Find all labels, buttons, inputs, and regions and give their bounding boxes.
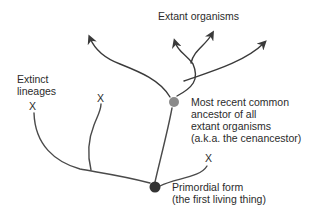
extinct-lineages-line1: Extinct	[17, 73, 56, 85]
primordial-label: Primordial form (the first living thing)	[172, 181, 266, 205]
cenancestor-line4: (a.k.a. the cenancestor)	[191, 132, 301, 144]
cenancestor-line1: Most recent common	[191, 96, 301, 108]
extinction-mark-left: X	[97, 93, 104, 103]
extant-branch-3	[191, 34, 212, 63]
cenancestor-label: Most recent common ancestor of all extan…	[191, 96, 301, 144]
extant-branch-1	[90, 38, 170, 97]
extinct-lineages-label: Extinct lineages	[17, 73, 56, 97]
cenancestor-line2: ancestor of all	[191, 108, 301, 120]
extinct-branch-left	[89, 104, 101, 170]
cenancestor-node	[169, 97, 179, 107]
extant-organisms-label: Extant organisms	[158, 10, 239, 22]
extant-branch-2	[175, 42, 196, 96]
cenancestor-line3: extant organisms	[191, 120, 301, 132]
primordial-line1: Primordial form	[172, 181, 266, 193]
trunk-branch	[155, 108, 172, 182]
extinct-lineages-line2: lineages	[17, 85, 56, 97]
extinction-mark-right: X	[205, 153, 212, 163]
extinction-mark-far-left: X	[29, 101, 36, 111]
extinct-branch-far-left	[34, 113, 150, 183]
primordial-node	[150, 182, 161, 193]
primordial-line2: (the first living thing)	[172, 193, 266, 205]
